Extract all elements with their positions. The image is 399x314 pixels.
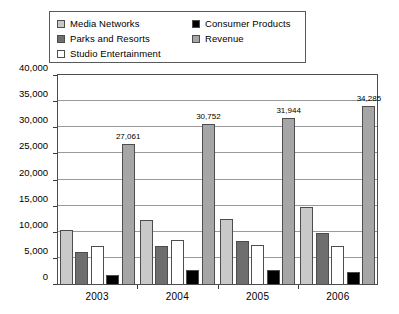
bar-group: 30,752 (137, 74, 217, 285)
legend-item-label: Media Networks (70, 16, 140, 31)
bar[interactable] (362, 106, 375, 285)
y-axis-tick-label: 0 (2, 272, 48, 281)
bar[interactable] (300, 207, 313, 285)
legend-item-label: Consumer Products (205, 16, 291, 31)
legend-item-label: Parks and Resorts (70, 31, 150, 46)
bar[interactable] (282, 118, 295, 285)
bar[interactable] (316, 233, 329, 285)
bar[interactable] (186, 270, 199, 285)
legend-item-label: Revenue (205, 31, 244, 46)
bar[interactable] (155, 246, 168, 285)
bar[interactable] (91, 246, 104, 285)
legend-item[interactable]: Parks and Resorts (57, 31, 192, 46)
bar[interactable] (331, 246, 344, 285)
legend-item[interactable]: Studio Entertainment (57, 46, 192, 61)
bar[interactable] (60, 230, 73, 285)
y-axis-tick-label: 40,000 (2, 63, 48, 72)
y-axis-tick-label: 25,000 (2, 141, 48, 150)
bar[interactable] (122, 144, 135, 285)
y-axis: 05,00010,00015,00020,00025,00030,00035,0… (0, 74, 57, 285)
y-axis-tick-label: 35,000 (2, 89, 48, 98)
legend-item-label: Studio Entertainment (70, 46, 161, 61)
bar[interactable] (347, 272, 360, 285)
y-axis-tick-label: 20,000 (2, 167, 48, 176)
bar[interactable] (75, 252, 88, 285)
bar[interactable] (251, 245, 264, 285)
legend-item[interactable]: Media Networks (57, 16, 192, 31)
legend-swatch-icon (192, 20, 200, 28)
x-axis-tick (137, 285, 138, 289)
legend-item[interactable]: Revenue (192, 31, 304, 46)
y-axis-tick-label: 10,000 (2, 219, 48, 228)
bar-chart: Media NetworksConsumer ProductsParks and… (0, 0, 399, 314)
bar[interactable] (236, 241, 249, 285)
y-axis-tick-label: 5,000 (2, 245, 48, 254)
bar-group: 27,061 (57, 74, 137, 285)
bars-layer: 27,06130,75231,94434,285 (57, 74, 378, 285)
bar-group: 31,944 (218, 74, 298, 285)
y-axis-tick-label: 15,000 (2, 193, 48, 202)
legend-swatch-icon (192, 35, 200, 43)
y-axis-tick-label: 30,000 (2, 115, 48, 124)
x-axis-tick-label: 2006 (308, 291, 368, 303)
legend-swatch-icon (57, 50, 65, 58)
legend-swatch-icon (57, 20, 65, 28)
x-axis: 2003200420052006 (57, 285, 378, 314)
bar[interactable] (220, 219, 233, 285)
legend-swatch-icon (57, 35, 65, 43)
x-axis-tick-label: 2004 (147, 291, 207, 303)
x-axis-tick (218, 285, 219, 289)
chart-legend: Media NetworksConsumer ProductsParks and… (49, 11, 306, 63)
bar[interactable] (140, 220, 153, 285)
bar[interactable] (202, 124, 215, 285)
bar[interactable] (171, 240, 184, 285)
bar-group: 34,285 (298, 74, 378, 285)
bar-value-label: 34,285 (350, 94, 387, 103)
bar[interactable] (267, 270, 280, 285)
x-axis-tick (298, 285, 299, 289)
x-axis-tick-label: 2005 (228, 291, 288, 303)
bar[interactable] (106, 275, 119, 285)
legend-item[interactable]: Consumer Products (192, 16, 304, 31)
x-axis-tick-label: 2003 (67, 291, 127, 303)
